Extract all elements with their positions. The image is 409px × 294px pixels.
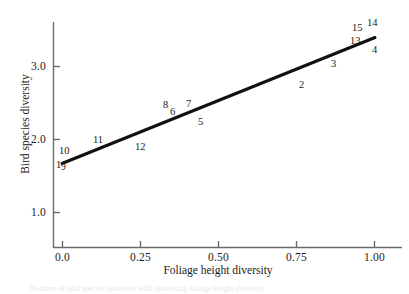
point-label-13: 13 bbox=[350, 36, 361, 47]
point-label-12: 12 bbox=[135, 142, 146, 153]
point-label-11: 11 bbox=[93, 135, 103, 146]
x-tick-marks bbox=[63, 241, 375, 248]
y-axis-title: Bird species diversity bbox=[19, 39, 31, 209]
point-label-9: 9 bbox=[61, 163, 66, 173]
point-label-7: 7 bbox=[186, 99, 191, 110]
point-label-3: 3 bbox=[331, 59, 336, 70]
x-tick-label-2: 0.50 bbox=[198, 251, 239, 263]
point-label-6: 6 bbox=[170, 107, 175, 118]
point-label-10: 10 bbox=[59, 146, 70, 157]
point-label-8: 8 bbox=[163, 100, 168, 111]
point-label-5: 5 bbox=[198, 117, 203, 128]
x-tick-label-0: 0.0 bbox=[42, 251, 83, 263]
x-tick-label-1: 0.25 bbox=[120, 251, 161, 263]
figure-container: 3.0 2.0 1.0 0.0 0.25 0.50 0.75 1.00 1 9 … bbox=[0, 0, 409, 294]
point-label-4: 4 bbox=[372, 45, 377, 56]
point-label-14: 14 bbox=[367, 18, 378, 29]
regression-line bbox=[62, 38, 375, 164]
figure-caption: Number of bird species increases with in… bbox=[30, 284, 405, 293]
point-label-15: 15 bbox=[352, 23, 363, 34]
x-tick-label-3: 0.75 bbox=[276, 251, 317, 263]
x-tick-label-4: 1.00 bbox=[354, 251, 395, 263]
x-axis-title: Foliage height diversity bbox=[53, 264, 383, 276]
point-label-2: 2 bbox=[299, 80, 304, 91]
y-tick-marks bbox=[54, 67, 61, 213]
